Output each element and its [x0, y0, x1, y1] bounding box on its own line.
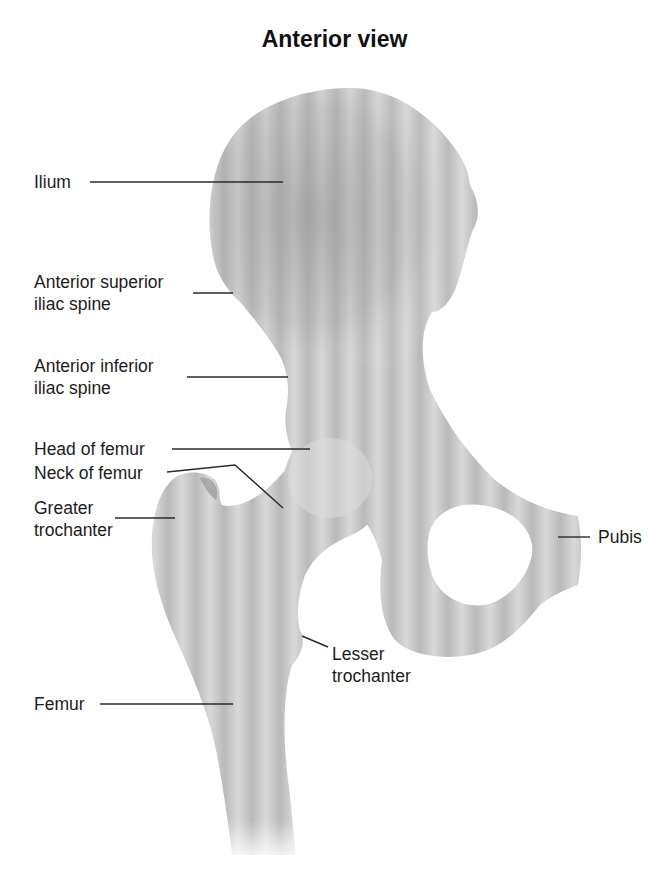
label-lesser-trochanter: Lesser trochanter — [332, 643, 411, 687]
label-greater-trochanter-line1: Greater — [34, 497, 113, 519]
label-asis-line1: Anterior superior — [34, 271, 163, 293]
label-asis-line2: iliac spine — [34, 293, 163, 315]
label-femur-text: Femur — [34, 693, 85, 715]
label-lesser-trochanter-line1: Lesser — [332, 643, 411, 665]
label-greater-trochanter-line2: trochanter — [34, 519, 113, 541]
label-neck-of-femur: Neck of femur — [34, 462, 143, 484]
label-pubis: Pubis — [598, 526, 642, 548]
label-ilium: Ilium — [34, 171, 71, 193]
label-pubis-text: Pubis — [598, 526, 642, 548]
label-greater-trochanter: Greater trochanter — [34, 497, 113, 541]
label-head-femur-text: Head of femur — [34, 438, 145, 460]
label-anterior-inferior-iliac-spine: Anterior inferior iliac spine — [34, 355, 154, 399]
hip-joint-illustration — [0, 0, 669, 870]
label-ilium-text: Ilium — [34, 171, 71, 193]
label-lesser-trochanter-line2: trochanter — [332, 665, 411, 687]
label-aiis-line2: iliac spine — [34, 377, 154, 399]
label-anterior-superior-iliac-spine: Anterior superior iliac spine — [34, 271, 163, 315]
label-femur: Femur — [34, 693, 85, 715]
label-neck-femur-text: Neck of femur — [34, 462, 143, 484]
leader-line-lesser-trochanter — [302, 636, 328, 647]
label-head-of-femur: Head of femur — [34, 438, 145, 460]
label-aiis-line1: Anterior inferior — [34, 355, 154, 377]
